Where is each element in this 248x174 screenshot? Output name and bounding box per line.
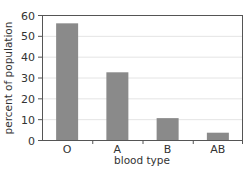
y-axis-ticks: 0102030405060 (21, 10, 42, 148)
x-tick-label: AB (210, 143, 225, 156)
bar-ab (207, 133, 229, 140)
y-tick-label: 60 (21, 10, 35, 23)
bar-o (56, 23, 78, 140)
y-tick-label: 40 (21, 51, 35, 64)
y-tick-label: 30 (21, 72, 35, 85)
y-tick-label: 0 (28, 135, 35, 148)
bar-chart: 0102030405060 OABAB blood type percent o… (0, 0, 248, 174)
x-tick-label: O (63, 143, 72, 156)
bar-b (157, 118, 179, 140)
y-tick-label: 20 (21, 93, 35, 106)
bars (56, 23, 229, 140)
x-axis-title: blood type (114, 154, 170, 166)
y-tick-label: 10 (21, 114, 35, 127)
y-tick-label: 50 (21, 30, 35, 43)
y-axis-title: percent of population (2, 22, 14, 135)
bar-a (106, 72, 128, 140)
